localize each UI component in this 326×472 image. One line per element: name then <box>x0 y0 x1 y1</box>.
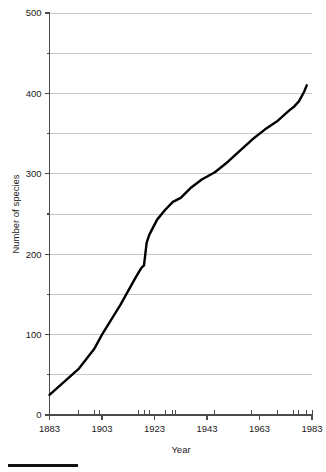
y-tick-label: 400 <box>26 88 42 99</box>
y-tick-label: 100 <box>26 329 42 340</box>
y-tick-label: 500 <box>26 7 42 18</box>
y-tick-label: 200 <box>26 249 42 260</box>
y-axis-major-ticks <box>45 13 50 415</box>
series-line-number-of-species <box>50 85 307 395</box>
x-tick-label: 1963 <box>249 423 270 434</box>
chart-figure: 0100200300400500 18831903192319431963198… <box>0 0 326 472</box>
x-tick-label: 1923 <box>144 423 165 434</box>
x-tick-label: 1903 <box>91 423 112 434</box>
y-tick-label: 300 <box>26 168 42 179</box>
footer-rule <box>8 464 78 467</box>
y-axis-title: Number of species <box>10 174 21 253</box>
x-axis-data-ticks <box>50 410 313 416</box>
x-tick-label: 1983 <box>301 423 322 434</box>
gridlines-group <box>50 13 313 375</box>
y-axis-tick-labels: 0100200300400500 <box>26 7 42 420</box>
x-tick-label: 1943 <box>196 423 217 434</box>
line-chart-svg: 0100200300400500 18831903192319431963198… <box>0 0 326 472</box>
x-axis-title: Year <box>171 444 190 455</box>
x-axis-tick-labels: 188319031923194319631983 <box>39 423 323 434</box>
x-tick-label: 1883 <box>39 423 60 434</box>
x-axis-major-ticks <box>50 415 313 420</box>
y-tick-label: 0 <box>36 409 41 420</box>
